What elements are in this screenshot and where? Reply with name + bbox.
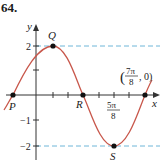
point-r xyxy=(80,92,85,97)
anno-den: 8 xyxy=(129,77,134,87)
sine-curve xyxy=(4,46,152,146)
point-end xyxy=(142,92,147,97)
x-tick-label-5pi8-den: 8 xyxy=(111,111,116,121)
x-axis-label: x xyxy=(151,97,157,109)
y-axis-label: y xyxy=(26,20,32,32)
label-r: R xyxy=(75,98,83,110)
anno-close: , 0) xyxy=(139,71,152,83)
sine-graph: y x 2 −1 −2 P Q R S 5π 8 ( 7π 8 , 0) xyxy=(0,0,163,162)
point-s xyxy=(111,143,116,148)
anno-num: 7π xyxy=(126,66,136,76)
point-q xyxy=(50,43,55,48)
y-axis-arrow-icon xyxy=(33,24,39,31)
y-tick-label-neg2: −2 xyxy=(20,141,31,152)
label-p: P xyxy=(8,100,16,112)
y-tick-label-2: 2 xyxy=(26,41,31,52)
y-tick-label-neg1: −1 xyxy=(20,115,31,126)
point-p xyxy=(10,92,15,97)
label-s: S xyxy=(110,150,116,162)
x-tick-label-5pi8-num: 5π xyxy=(107,100,117,110)
anno-open-paren: ( xyxy=(120,69,125,86)
label-q: Q xyxy=(48,29,56,41)
